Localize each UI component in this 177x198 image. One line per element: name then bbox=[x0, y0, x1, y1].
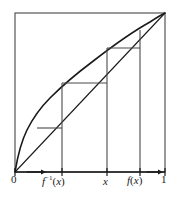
plot-canvas bbox=[0, 0, 177, 198]
axis-label-x: x bbox=[103, 176, 108, 187]
close-paren: ) bbox=[139, 174, 143, 186]
identity-line bbox=[15, 13, 165, 172]
axis-label-zero: 0 bbox=[11, 174, 17, 185]
axis-label-f-of-x: f(x) bbox=[127, 175, 142, 186]
inverse-exponent: −1 bbox=[45, 174, 52, 182]
close-paren: ) bbox=[61, 175, 65, 187]
axis-label-one: 1 bbox=[161, 174, 167, 185]
figure-container: 0 f−1(x) x f(x) 1 bbox=[0, 0, 177, 198]
axis-label-f-inverse-of-x: f−1(x) bbox=[42, 175, 65, 187]
